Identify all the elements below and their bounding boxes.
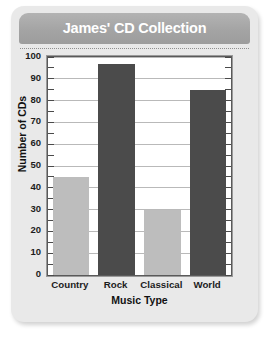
plot-inner [48,57,231,275]
y-axis-tick-label: 100 [7,50,41,61]
bar-rock [98,64,135,275]
bar-classical [144,210,181,275]
y-axis-tick-label: 20 [7,224,41,235]
y-axis-label: Number of CDs [16,74,28,194]
y-axis-tick-label: 90 [7,72,41,83]
axis-minor-tick [48,166,54,167]
axis-minor-tick [48,100,54,101]
y-axis-tick-label: 80 [7,94,41,105]
axis-minor-tick [48,144,54,145]
axis-minor-tick [48,67,54,68]
y-axis-tick-label: 0 [7,268,41,279]
axis-minor-tick [48,133,54,134]
axis-minor-tick [48,155,54,156]
x-axis-tick-label: World [184,279,230,290]
axis-minor-tick [48,111,54,112]
axis-minor-tick [48,78,54,79]
y-axis-tick-label: 70 [7,115,41,126]
chart-header: James' CD Collection [19,13,250,44]
x-axis-tick-label: Classical [139,279,185,290]
axis-minor-tick [48,57,54,58]
axis-minor-tick [225,67,231,68]
bar-world [190,90,227,275]
x-axis-tick-label: Rock [93,279,139,290]
axis-minor-tick [225,57,231,58]
header-divider [20,48,249,49]
y-axis-tick-label: 40 [7,181,41,192]
gridline [48,57,231,58]
y-axis-tick-label: 50 [7,159,41,170]
y-axis-tick-label: 10 [7,246,41,257]
x-axis-tick-label: Country [47,279,93,290]
y-axis-tick-label: 60 [7,137,41,148]
y-axis-tick-label: 30 [7,203,41,214]
x-axis-label: Music Type [47,294,232,306]
gridline [48,78,231,79]
chart-title: James' CD Collection [19,13,250,44]
axis-minor-tick [225,78,231,79]
axis-minor-tick [48,122,54,123]
axis-minor-tick [48,89,54,90]
plot-area [47,56,232,276]
bar-country [53,177,90,275]
